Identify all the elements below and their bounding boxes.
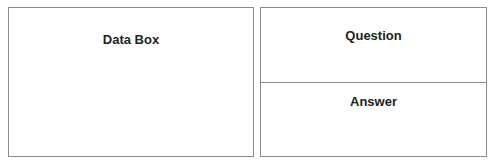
question-title: Question bbox=[261, 28, 486, 43]
question-answer-panel: Question Answer bbox=[260, 7, 487, 157]
data-box-title: Data Box bbox=[9, 32, 253, 47]
data-box-panel: Data Box bbox=[8, 7, 254, 157]
question-answer-divider bbox=[261, 82, 486, 83]
answer-title: Answer bbox=[261, 94, 486, 109]
